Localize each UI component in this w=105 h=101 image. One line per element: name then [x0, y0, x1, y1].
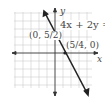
y-intercept-label: (0, 5/2)	[29, 31, 62, 40]
equation-label: 4x + 2y = 5	[60, 20, 105, 30]
x-axis-label: x	[97, 55, 102, 64]
x-intercept-label: (5/4, 0)	[66, 41, 99, 50]
coordinate-plane	[0, 0, 105, 101]
y-axis-label: y	[60, 7, 65, 16]
x-intercept-point	[63, 51, 66, 54]
